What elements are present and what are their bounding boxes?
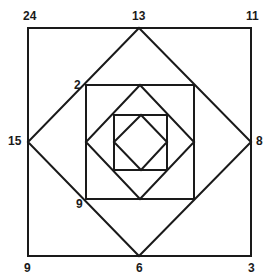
label-top-right: 11 [246,10,259,22]
nested-squares-diagram [0,0,270,280]
label-inner-lower-left: 9 [76,198,83,210]
label-bottom-left: 9 [24,262,31,274]
label-middle-left: 15 [8,135,21,147]
inner-square [114,115,167,170]
label-bottom-right: 3 [248,262,255,274]
inner-diamond [114,115,167,170]
label-bottom-center: 6 [136,262,143,274]
middle-square [86,85,194,199]
label-inner-upper-left: 2 [74,79,81,91]
label-top-left: 24 [23,10,36,22]
middle-diamond [86,85,194,199]
label-top-center: 13 [132,10,145,22]
outer-diamond [28,28,251,256]
label-middle-right: 8 [256,135,263,147]
outer-square [28,28,251,256]
